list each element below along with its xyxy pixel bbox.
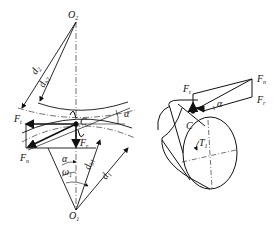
label-T1: T1 bbox=[199, 137, 208, 149]
label-d2: d2 bbox=[28, 63, 42, 76]
label-alpha-right: α bbox=[217, 98, 223, 109]
label-Fn: Fn bbox=[19, 152, 29, 164]
right-cylinder-diagram bbox=[158, 79, 252, 189]
label-C-right: C bbox=[186, 120, 193, 131]
label-O1: O1 bbox=[69, 210, 79, 222]
left-gear-diagram bbox=[18, 22, 135, 210]
gear-force-figure: O2 d2 db2 C α Ft Fr Fn α ω1 db1 d1 O1 bbox=[0, 0, 277, 227]
label-omega1: ω1 bbox=[62, 166, 72, 178]
label-alpha-top: α bbox=[124, 108, 130, 119]
label-C: C bbox=[80, 116, 87, 127]
label-Fr: Fr bbox=[79, 137, 89, 149]
label-alpha-mid: α bbox=[62, 153, 68, 164]
label-O2: O2 bbox=[68, 9, 78, 21]
label-Ft-right: Ft bbox=[182, 83, 191, 95]
label-d1: d1 bbox=[99, 168, 113, 181]
label-db2: db2 bbox=[36, 74, 52, 89]
label-Fn-right: Fn bbox=[256, 73, 266, 85]
label-Ft: Ft bbox=[13, 113, 22, 125]
label-Fr-right: Fr bbox=[256, 94, 266, 106]
